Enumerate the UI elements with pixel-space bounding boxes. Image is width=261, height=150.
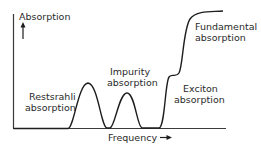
impurity-label-line1: Impurity	[110, 66, 150, 77]
y-axis-label: Absorption	[19, 11, 70, 22]
restsrahli-label-line2: absorption	[25, 102, 76, 113]
exciton-label-line1: Exciton	[183, 83, 218, 94]
fundamental-label-line2: absorption	[195, 32, 246, 43]
y-axis-arrow-icon	[21, 22, 26, 39]
x-axis-label: Frequency	[108, 132, 157, 143]
exciton-label-line2: absorption	[174, 94, 225, 105]
x-axis-arrow-icon	[160, 135, 172, 140]
fundamental-label-line1: Fundamental	[195, 21, 257, 32]
absorption-spectrum-diagram: Absorption Frequency Restsrahli absorpti…	[0, 0, 261, 150]
impurity-label-line2: absorption	[107, 77, 158, 88]
restsrahli-label-line1: Restsrahli	[29, 91, 76, 102]
